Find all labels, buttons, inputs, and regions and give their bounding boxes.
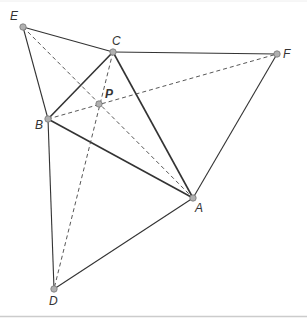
segment-BD [48, 119, 54, 289]
label-F: F [283, 47, 291, 61]
point-P [96, 101, 102, 107]
segment-EB [23, 27, 48, 119]
segment-EC [23, 27, 113, 52]
label-A: A [194, 201, 203, 215]
point-B [45, 116, 51, 122]
point-E [20, 24, 26, 30]
segment-DA [54, 198, 193, 289]
label-B: B [35, 118, 43, 132]
geometry-diagram: E C F P B A D [0, 0, 307, 325]
point-F [274, 51, 280, 57]
point-C [110, 49, 116, 55]
point-D [51, 286, 57, 292]
segment-CF [113, 52, 277, 54]
label-C: C [112, 34, 121, 48]
label-D: D [49, 294, 58, 308]
segment-FA [193, 54, 277, 198]
label-P: P [105, 87, 114, 101]
label-E: E [10, 9, 19, 23]
